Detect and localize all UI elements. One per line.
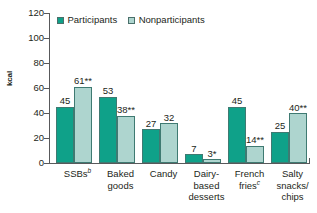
bar-group-candy: 27 32 [142, 13, 179, 163]
bar-french-fries-nonparticipants[interactable]: 14** [246, 146, 264, 164]
bar-value-ssbs-participants: 45 [60, 96, 71, 106]
bar-baked-goods-nonparticipants[interactable]: 38** [117, 116, 135, 164]
y-tick-label-0: 0 [22, 158, 44, 168]
bar-ssbs-participants[interactable]: 45 [56, 107, 74, 163]
x-label-salty-snacks-chips-line3: chips [281, 191, 303, 202]
bar-group-french-fries: 45 14** [228, 13, 265, 163]
bar-ssbs-nonparticipants[interactable]: 61** [74, 87, 92, 163]
y-tick-label-20: 20 [22, 133, 44, 143]
bar-value-dairy-based-desserts-nonparticipants: 3* [208, 149, 217, 159]
bar-value-candy-participants: 27 [146, 119, 157, 129]
y-tick-label-100: 100 [22, 33, 44, 43]
bar-group-baked-goods: 53 38** [99, 13, 136, 163]
y-tick-label-60: 60 [22, 83, 44, 93]
bar-value-french-fries-participants: 45 [232, 96, 243, 106]
bar-value-baked-goods-nonparticipants: 38** [117, 105, 135, 115]
bar-value-baked-goods-participants: 53 [103, 86, 114, 96]
bar-value-dairy-based-desserts-participants: 7 [191, 144, 196, 154]
bar-group-salty-snacks-chips: 25 40** [271, 13, 308, 163]
x-label-dairy-based-desserts-line2: based [194, 180, 220, 191]
x-label-dairy-based-desserts-line1: Dairy- [194, 168, 219, 179]
bar-salty-snacks-chips-nonparticipants[interactable]: 40** [289, 113, 307, 163]
bar-value-ssbs-nonparticipants: 61** [74, 76, 92, 86]
y-tick-label-120: 120 [22, 8, 44, 18]
x-label-salty-snacks-chips: Salty snacks/ chips [265, 168, 317, 203]
bar-value-salty-snacks-chips-nonparticipants: 40** [289, 103, 307, 113]
bar-dairy-based-desserts-participants[interactable]: 7 [185, 154, 203, 163]
x-label-french-fries-line2: fries [239, 180, 257, 191]
y-axis-ticks: 120 100 80 60 40 20 0 [0, 0, 44, 213]
plot-area: 45 61** 53 38** 27 32 [50, 13, 309, 163]
bar-dairy-based-desserts-nonparticipants[interactable]: 3* [203, 159, 221, 163]
x-label-candy-line1: Candy [150, 168, 177, 179]
bar-group-dairy-based-desserts: 7 3* [185, 13, 222, 163]
bar-candy-nonparticipants[interactable]: 32 [160, 123, 178, 163]
bar-french-fries-participants[interactable]: 45 [228, 107, 246, 163]
x-label-salty-snacks-chips-line1: Salty [282, 168, 303, 179]
x-label-french-fries-footnote: c [257, 178, 260, 185]
x-label-baked-goods-line2: goods [108, 180, 134, 191]
x-label-salty-snacks-chips-line2: snacks/ [276, 180, 308, 191]
bar-baked-goods-participants[interactable]: 53 [99, 97, 117, 163]
x-axis-end-cap [309, 158, 310, 164]
bar-salty-snacks-chips-participants[interactable]: 25 [271, 132, 289, 163]
bar-value-salty-snacks-chips-participants: 25 [275, 121, 286, 131]
bar-value-french-fries-nonparticipants: 14** [246, 135, 264, 145]
y-tick-label-80: 80 [22, 58, 44, 68]
bar-group-ssbs: 45 61** [56, 13, 93, 163]
x-label-french-fries-line1: French [235, 168, 265, 179]
bar-value-candy-nonparticipants: 32 [164, 113, 175, 123]
bar-chart: kcal 120 100 80 60 40 20 0 Participants … [0, 0, 317, 213]
x-label-ssbs-line1: SSBs [64, 168, 88, 179]
x-label-dairy-based-desserts-line3: desserts [189, 191, 225, 202]
x-axis-category-labels: SSBsb Baked goods Candy Dairy- based des… [50, 168, 309, 213]
y-tick-label-40: 40 [22, 108, 44, 118]
x-label-baked-goods-line1: Baked [107, 168, 134, 179]
bar-candy-participants[interactable]: 27 [142, 129, 160, 163]
x-label-ssbs-footnote: b [88, 167, 92, 174]
x-axis-line [49, 163, 309, 164]
